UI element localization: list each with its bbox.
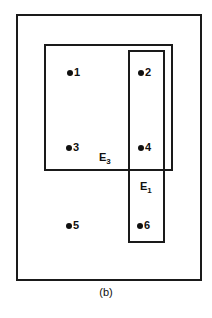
point-label: 6 xyxy=(144,220,150,231)
point-label: 2 xyxy=(145,67,151,78)
data-point: 4 xyxy=(138,142,151,153)
region-label-e3-subscript: 3 xyxy=(106,157,110,166)
venn-diagram-figure: E3 E1 1 2 3 4 5 6 (b) xyxy=(0,0,212,318)
point-marker-dot xyxy=(138,70,144,76)
point-label: 4 xyxy=(145,142,151,153)
point-marker-dot xyxy=(137,223,143,229)
data-point: 1 xyxy=(67,67,80,78)
region-label-e1-subscript: 1 xyxy=(147,186,151,195)
point-label: 3 xyxy=(73,142,79,153)
data-point: 5 xyxy=(66,220,79,231)
point-label: 5 xyxy=(73,220,79,231)
point-marker-dot xyxy=(66,223,72,229)
point-marker-dot xyxy=(67,70,73,76)
region-label-e1: E1 xyxy=(140,181,152,192)
data-point: 2 xyxy=(138,67,151,78)
point-marker-dot xyxy=(138,145,144,151)
point-marker-dot xyxy=(66,145,72,151)
figure-caption: (b) xyxy=(0,286,212,298)
data-point: 3 xyxy=(66,142,79,153)
data-point: 6 xyxy=(137,220,150,231)
region-label-e3: E3 xyxy=(99,152,111,163)
point-label: 1 xyxy=(74,67,80,78)
